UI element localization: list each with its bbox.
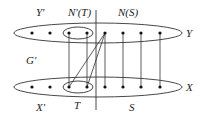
vertex-y8 (158, 31, 161, 34)
vertex-y6 (121, 31, 124, 34)
label-g-prime: G' (26, 54, 37, 66)
label-n-prime-t: N'(T) (67, 6, 91, 19)
vertex-x4 (85, 85, 88, 88)
y-set-ellipse (14, 23, 182, 43)
vertex-x2 (48, 85, 51, 88)
label-x-prime: X' (35, 101, 46, 113)
label-y: Y (186, 27, 194, 39)
bipartite-diagram: Y' N'(T) N(S) Y G' X X' T S (0, 0, 204, 121)
vertex-y5 (103, 31, 106, 34)
vertex-y2 (48, 31, 51, 34)
label-y-prime: Y' (36, 6, 45, 18)
vertex-x7 (139, 85, 142, 88)
vertex-x1 (30, 85, 33, 88)
vertex-y3 (67, 31, 70, 34)
label-t: T (74, 99, 81, 111)
vertex-x8 (158, 85, 161, 88)
x-set-ellipse (14, 77, 182, 97)
label-n-s: N(S) (117, 6, 139, 19)
vertex-x5 (103, 85, 106, 88)
vertex-y7 (139, 31, 142, 34)
vertex-x3 (67, 85, 70, 88)
vertex-x6 (121, 85, 124, 88)
label-x: X (185, 81, 194, 93)
label-s: S (129, 101, 135, 113)
vertex-y1 (30, 31, 33, 34)
vertex-y4 (85, 31, 88, 34)
